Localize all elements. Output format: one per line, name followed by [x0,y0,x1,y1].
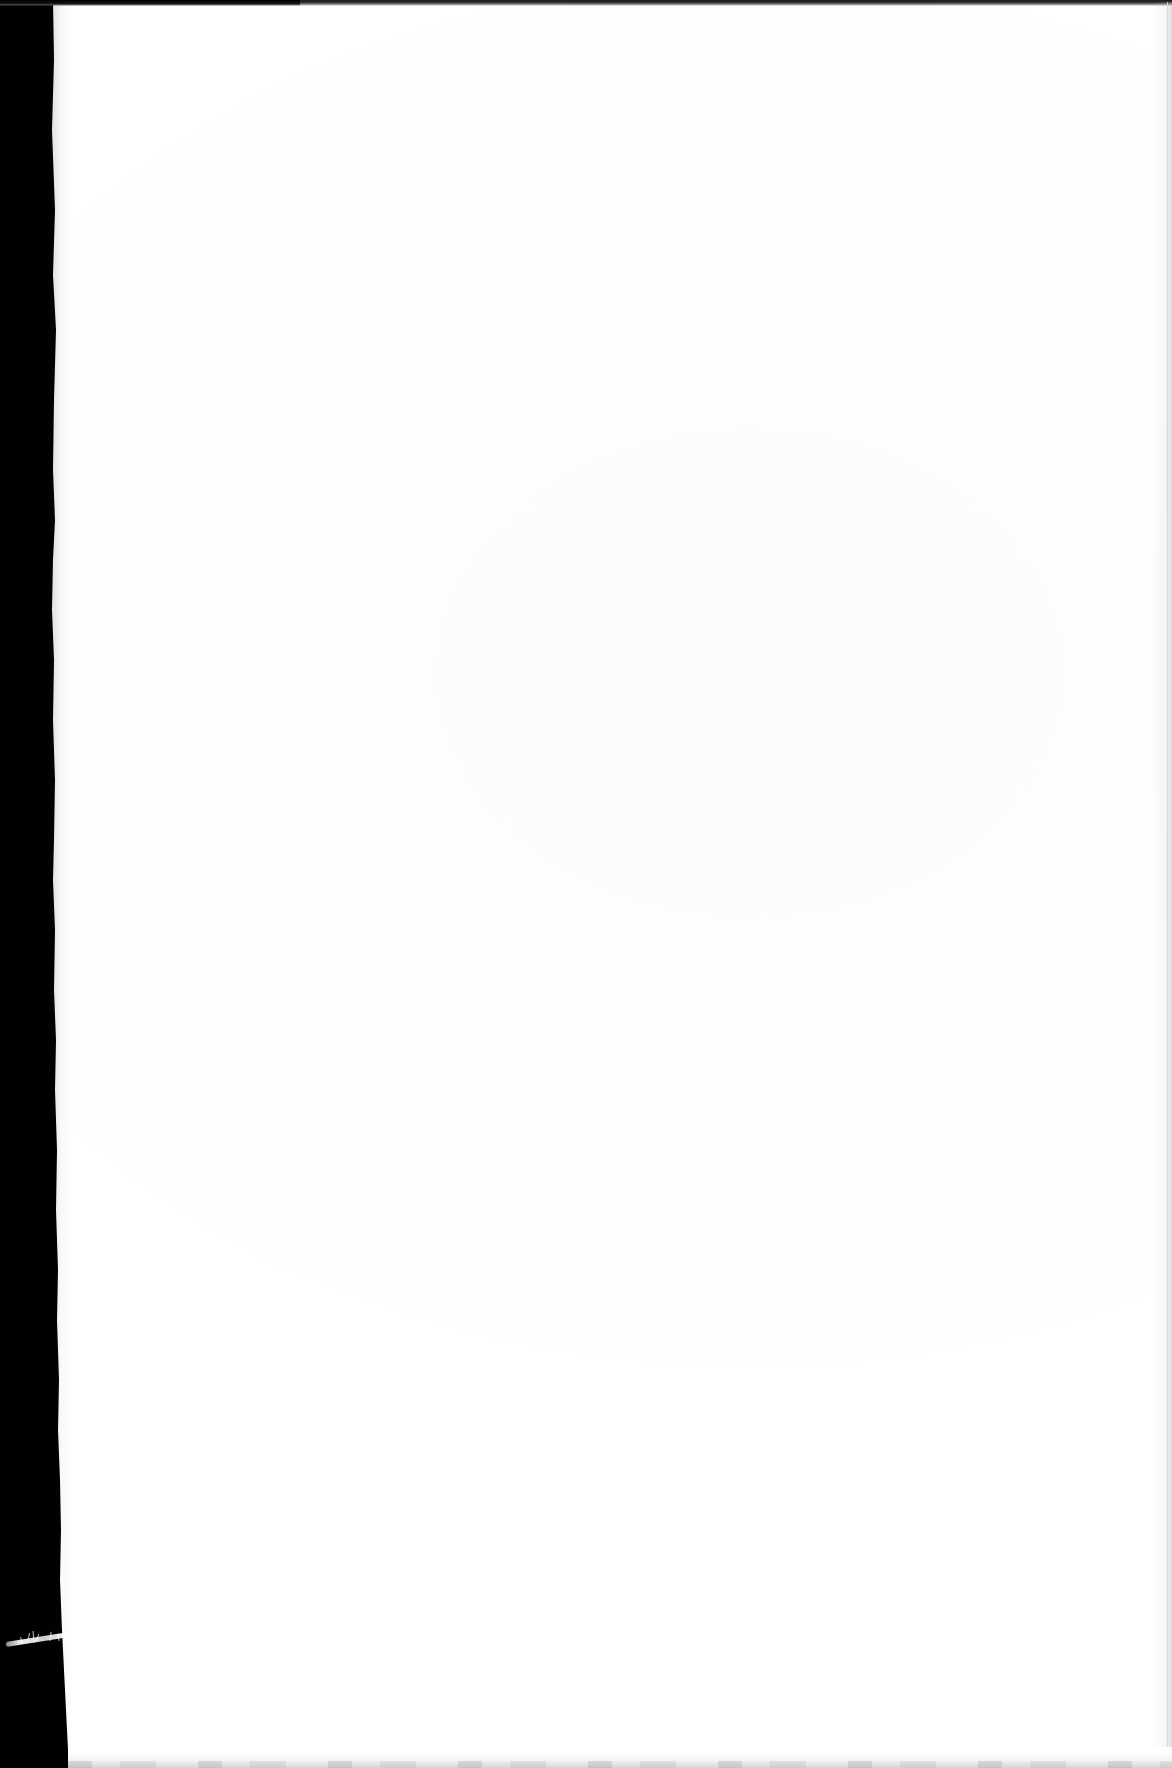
bottom-page-edge-shadow [68,1752,1172,1768]
right-page-edge-line [1167,2,1168,1747]
top-page-edge-line [0,0,1172,6]
right-page-edge-shade [1152,2,1172,1747]
page-content-area [80,20,1150,1740]
scanned-page [0,0,1172,1768]
